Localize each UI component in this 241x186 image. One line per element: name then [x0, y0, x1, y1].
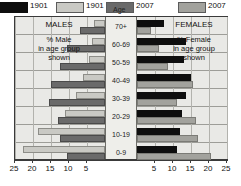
- axis-label-left-10: 10: [60, 164, 76, 173]
- axis-label-left-25: 25: [6, 164, 22, 173]
- axis-caption-age: Age: [113, 6, 125, 13]
- bar-females-2007-20-29: [137, 117, 196, 124]
- bar-males-1901-10-19: [38, 128, 105, 135]
- bar-females-2007-70plus: [137, 27, 151, 34]
- bar-males-1901-40-49: [83, 74, 105, 81]
- age-label-20-29: 20-29: [106, 113, 136, 120]
- bar-females-1901-10-19: [137, 128, 180, 135]
- bar-females-2007-50-59: [137, 63, 168, 70]
- axis-line: [14, 160, 228, 161]
- bar-females-2007-10-19: [137, 135, 198, 142]
- axis-tick: [154, 160, 155, 163]
- legend-label-males-1901: 1901: [86, 1, 104, 10]
- age-label-0-9: 0-9: [106, 149, 136, 156]
- grid-v: [227, 17, 228, 159]
- grid-v: [15, 17, 16, 159]
- legend-label-females-2007: 2007: [208, 1, 226, 10]
- axis-label-left-20: 20: [24, 164, 40, 173]
- axis-label-right-25: 25: [218, 164, 234, 173]
- axis-tick: [32, 160, 33, 163]
- males-note-line3: shown: [23, 54, 95, 63]
- bar-males-2007-50-59: [60, 63, 105, 70]
- axis-tick: [190, 160, 191, 163]
- age-label-50-59: 50-59: [106, 59, 136, 66]
- bar-males-1901-70plus: [94, 20, 105, 27]
- bar-males-1901-30-39: [76, 92, 105, 99]
- population-pyramid: 70+ 60-69 50-59 40-49 30-39 20-29 10-19 …: [14, 16, 228, 160]
- bar-females-1901-20-29: [137, 110, 182, 117]
- x-axis: 25 20 15 10 5 5 10 15 20 25: [14, 160, 228, 186]
- legend-swatch-males-1901: [56, 2, 84, 13]
- bar-males-2007-30-39: [49, 99, 105, 106]
- females-title: FEMALES: [163, 20, 225, 29]
- females-note-line3: shown: [161, 54, 227, 63]
- axis-label-right-10: 10: [164, 164, 180, 173]
- bar-males-1901-0-9: [23, 146, 105, 153]
- bar-females-1901-70plus: [137, 20, 164, 27]
- axis-label-left-15: 15: [42, 164, 58, 173]
- age-label-70plus: 70+: [106, 23, 136, 30]
- bar-females-2007-30-39: [137, 99, 177, 106]
- legend-label-males-2007: 2007: [136, 1, 154, 10]
- bar-females-1901-0-9: [137, 146, 177, 153]
- bar-females-1901-30-39: [137, 92, 186, 99]
- age-label-40-49: 40-49: [106, 77, 136, 84]
- legend-swatch-females-1901: [0, 2, 28, 13]
- males-title: MALES: [31, 20, 87, 29]
- bar-males-2007-40-49: [51, 81, 105, 88]
- axis-label-left-5: 5: [78, 164, 94, 173]
- axis-tick: [226, 160, 227, 163]
- bar-males-1901-20-29: [65, 110, 105, 117]
- bar-females-1901-40-49: [137, 74, 191, 81]
- bar-females-2007-40-49: [137, 81, 193, 88]
- axis-label-right-20: 20: [200, 164, 216, 173]
- axis-tick: [68, 160, 69, 163]
- age-label-10-19: 10-19: [106, 131, 136, 138]
- legend-label-females-1901: 1901: [30, 1, 48, 10]
- bar-males-2007-0-9: [67, 153, 105, 160]
- axis-label-right-5: 5: [146, 164, 162, 173]
- age-label-band: 70+ 60-69 50-59 40-49 30-39 20-29 10-19 …: [105, 17, 137, 159]
- age-label-60-69: 60-69: [106, 41, 136, 48]
- axis-tick: [172, 160, 173, 163]
- bar-females-2007-0-9: [137, 153, 211, 160]
- bar-males-2007-10-19: [60, 135, 105, 142]
- axis-tick: [86, 160, 87, 163]
- axis-tick: [14, 160, 15, 163]
- axis-tick: [208, 160, 209, 163]
- bar-males-2007-20-29: [58, 117, 105, 124]
- legend-swatch-females-2007: [178, 2, 206, 13]
- axis-tick: [50, 160, 51, 163]
- axis-label-right-15: 15: [182, 164, 198, 173]
- age-label-30-39: 30-39: [106, 95, 136, 102]
